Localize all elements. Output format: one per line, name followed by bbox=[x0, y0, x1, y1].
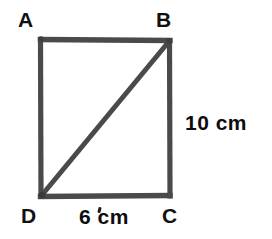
vertex-label-c: C bbox=[162, 205, 177, 226]
corner-blob-d bbox=[39, 192, 45, 198]
edge-cd-bottom-side bbox=[41, 196, 171, 197]
edge-db-diagonal bbox=[42, 42, 169, 195]
edge-ab-top-side bbox=[41, 40, 171, 41]
corner-blob-a bbox=[38, 36, 44, 42]
edge-bc-right-side bbox=[170, 41, 171, 197]
corner-blob-c bbox=[166, 192, 171, 197]
measurement-label-bc: 10 cm bbox=[185, 112, 247, 133]
corner-blob-b bbox=[166, 38, 172, 44]
vertex-label-d: D bbox=[21, 205, 36, 226]
geometry-diagram: A B C D 10 cm 6 cm bbox=[0, 0, 272, 239]
measurement-label-dc: 6 cm bbox=[79, 206, 129, 227]
edge-da-left-side bbox=[41, 40, 42, 197]
vertex-label-a: A bbox=[18, 9, 33, 30]
vertex-label-b: B bbox=[156, 9, 171, 30]
